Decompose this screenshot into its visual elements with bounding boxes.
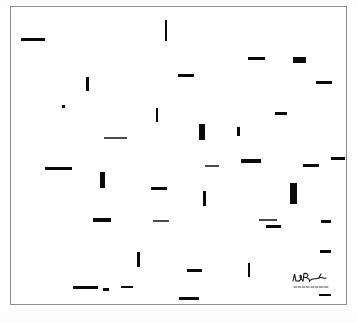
- horizontal-dash-mark: [316, 81, 332, 84]
- horizontal-dash-mark: [153, 220, 169, 222]
- picture-frame: [10, 6, 347, 305]
- vertical-dash-mark: [86, 77, 89, 91]
- artwork-canvas: [0, 0, 357, 322]
- vertical-dash-mark: [237, 127, 240, 136]
- horizontal-dash-mark: [293, 57, 306, 63]
- horizontal-dash-mark: [121, 286, 133, 288]
- horizontal-dash-mark: [151, 187, 167, 190]
- vertical-dash-mark: [100, 172, 105, 188]
- horizontal-dash-mark: [275, 112, 287, 115]
- horizontal-dash-mark: [320, 250, 331, 253]
- horizontal-dash-mark: [187, 269, 202, 272]
- horizontal-dash-mark: [241, 159, 261, 163]
- horizontal-dash-mark: [331, 157, 345, 160]
- vertical-dash-mark: [248, 263, 250, 277]
- horizontal-dash-mark: [205, 165, 219, 167]
- horizontal-dash-mark: [266, 225, 281, 228]
- horizontal-dash-mark: [104, 137, 127, 139]
- horizontal-dash-mark: [45, 167, 72, 170]
- horizontal-dash-mark: [179, 297, 199, 300]
- composition-field: [11, 7, 346, 304]
- horizontal-dash-mark: [62, 105, 65, 108]
- vertical-dash-mark: [290, 183, 297, 204]
- horizontal-dash-mark: [21, 38, 45, 41]
- horizontal-dash-mark: [103, 288, 109, 291]
- vertical-dash-mark: [203, 191, 206, 206]
- horizontal-dash-mark: [321, 220, 331, 223]
- horizontal-dash-mark: [93, 218, 111, 222]
- horizontal-dash-mark: [303, 164, 319, 167]
- vertical-dash-mark: [137, 252, 140, 267]
- horizontal-dash-mark: [259, 219, 277, 221]
- horizontal-dash-mark: [73, 286, 98, 289]
- horizontal-dash-mark: [178, 74, 194, 77]
- vertical-dash-mark: [156, 108, 158, 122]
- horizontal-dash-mark: [319, 294, 331, 296]
- vertical-dash-mark: [165, 20, 167, 41]
- horizontal-dash-mark: [248, 57, 265, 60]
- vertical-dash-mark: [199, 124, 205, 140]
